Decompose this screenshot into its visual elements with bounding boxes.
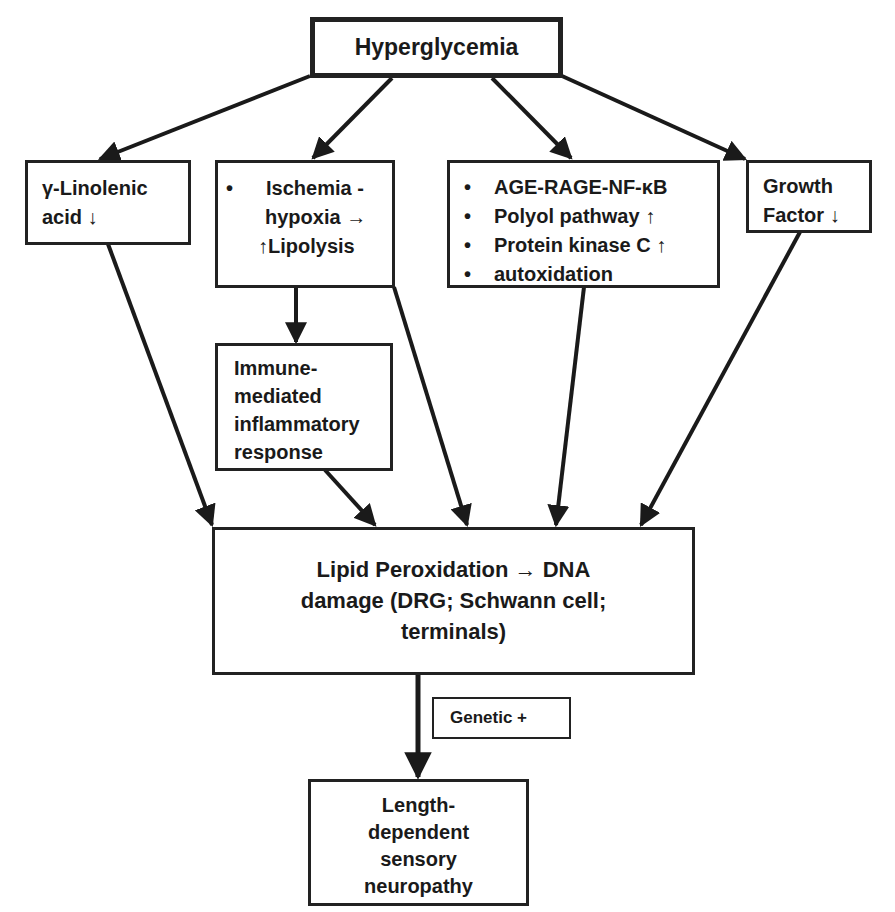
ischemia-line-3: ↑Lipolysis: [218, 232, 392, 261]
growth-line-1: Growth: [763, 172, 869, 201]
growth-line-2: Factor ↓: [763, 201, 869, 230]
connector-arrows: [0, 0, 895, 912]
immune-line-2: mediated: [234, 382, 390, 410]
immune-line-1: Immune-: [234, 354, 390, 382]
linolenic-acid-box: γ-Linolenic acid ↓: [25, 160, 191, 245]
lipid-line-2: damage (DRG; Schwann cell;: [215, 585, 692, 616]
arrow-hyper-to-growth: [562, 76, 745, 159]
lipid-line-3: terminals): [215, 616, 692, 647]
arrow-immune-to-lipid: [325, 470, 375, 525]
list-item: Protein kinase C ↑: [456, 231, 717, 260]
growth-factor-box: Growth Factor ↓: [746, 160, 872, 233]
immune-line-4: response: [234, 438, 390, 466]
genetic-modifier-box: Genetic +: [432, 697, 571, 739]
arrow-hyper-to-linolenic: [100, 76, 310, 159]
ischemia-bullet: Ischemia -: [218, 174, 392, 203]
list-item: Polyol pathway ↑: [456, 202, 717, 231]
linolenic-line-1: γ-Linolenic: [42, 174, 188, 203]
arrow-ischemia-to-lipid: [394, 287, 467, 525]
outcome-line-3: sensory: [311, 846, 526, 873]
hyperglycemia-box: Hyperglycemia: [310, 17, 563, 78]
outcome-line-4: neuropathy: [311, 873, 526, 900]
hyperglycemia-label: Hyperglycemia: [315, 22, 558, 73]
arrow-linolenic-to-lipid: [108, 244, 212, 525]
list-item: AGE-RAGE-NF-κB: [456, 173, 717, 202]
metabolic-pathways-box: AGE-RAGE-NF-κB Polyol pathway ↑ Protein …: [447, 160, 720, 288]
metabolic-pathways-list: AGE-RAGE-NF-κB Polyol pathway ↑ Protein …: [456, 173, 717, 289]
arrow-metabolic-to-lipid: [556, 287, 584, 525]
lipid-peroxidation-box: Lipid Peroxidation → DNA damage (DRG; Sc…: [212, 527, 695, 675]
immune-response-box: Immune- mediated inflammatory response: [215, 343, 393, 471]
genetic-label: Genetic +: [450, 699, 569, 737]
list-item: autoxidation: [456, 260, 717, 289]
linolenic-line-2: acid ↓: [42, 203, 188, 232]
neuropathy-outcome-box: Length- dependent sensory neuropathy: [308, 779, 529, 906]
arrow-hyper-to-metabolic: [492, 78, 571, 158]
immune-line-3: inflammatory: [234, 410, 390, 438]
outcome-line-2: dependent: [311, 819, 526, 846]
outcome-line-1: Length-: [311, 792, 526, 819]
arrow-hyper-to-ischemia: [313, 78, 392, 158]
ischemia-line-2: hypoxia →: [218, 203, 392, 232]
lipid-line-1: Lipid Peroxidation → DNA: [215, 554, 692, 585]
ischemia-box: Ischemia - hypoxia → ↑Lipolysis: [215, 160, 395, 288]
